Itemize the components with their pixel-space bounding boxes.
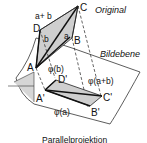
label-C-prime: C' [103, 92, 112, 103]
label-B-prime: B' [91, 107, 100, 118]
label-bildebene: Bildebene [100, 49, 140, 59]
label-a-plus-b: a+ b [35, 11, 52, 21]
label-a: a [64, 31, 69, 41]
label-D-prime: D' [58, 74, 67, 85]
projection-line-a [36, 68, 45, 90]
caption: Parallelprojektion [42, 135, 107, 143]
label-phi-a-plus-b: φ(a+b) [88, 76, 114, 86]
label-b: b [44, 34, 49, 44]
parallel-projection-diagram: C Original B D A a+ b b a Bildebene φ(b)… [0, 0, 147, 143]
label-D: D [33, 23, 40, 34]
label-C: C [80, 2, 87, 13]
label-phi-a: φ(a) [54, 107, 70, 117]
label-B: B [74, 35, 81, 46]
label-original: Original [95, 5, 127, 15]
label-A-prime: A' [36, 93, 45, 104]
label-phi-b: φ(b) [48, 64, 64, 74]
label-A: A [27, 62, 34, 73]
